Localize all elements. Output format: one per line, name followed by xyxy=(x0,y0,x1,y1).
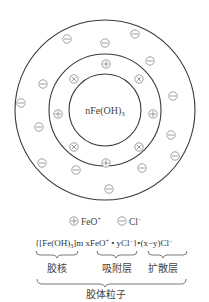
minus-ion-icon xyxy=(171,152,179,160)
cross-ion-icon xyxy=(135,143,143,151)
minus-ion-icon xyxy=(38,159,46,167)
label-core: 胶核 xyxy=(47,262,67,274)
colloid-formula: {[Fe(OH)3]m xFeO+ • yCl−}•(x−y)Cl− xyxy=(35,238,173,250)
plus-ion-icon xyxy=(102,60,110,68)
plus-ion-icon xyxy=(54,110,62,118)
minus-ion-icon xyxy=(146,57,154,65)
legend: FeO+ Cl− xyxy=(70,216,142,227)
minus-ion-icon xyxy=(131,30,139,38)
legend-plus-icon xyxy=(70,217,78,225)
core-label: nFe(OH)3 xyxy=(85,105,125,118)
legend-cl-label: Cl− xyxy=(129,216,142,227)
plus-ion-icon xyxy=(149,110,157,118)
minus-ion-icon xyxy=(105,185,113,193)
brace-diffuse xyxy=(148,251,187,258)
cross-ion-icon xyxy=(70,143,78,151)
brace-colloid-particle xyxy=(37,279,186,287)
minus-ion-icon xyxy=(72,166,80,174)
brace-adsorption xyxy=(97,251,137,258)
legend-feo-label: FeO+ xyxy=(81,216,101,227)
legend-minus-icon xyxy=(118,217,126,225)
minus-ion-icon xyxy=(35,123,43,131)
label-adsorption-layer: 吸附层 xyxy=(102,262,132,274)
brace-core xyxy=(36,251,78,258)
minus-ion-icon xyxy=(63,35,71,43)
minus-ion-icon xyxy=(167,131,175,139)
cross-ion-icon xyxy=(135,75,143,83)
minus-ion-icon xyxy=(138,164,146,172)
cross-ion-icon xyxy=(70,75,78,83)
colloid-structure-diagram: nFe(OH)3 FeO+ Cl− {[Fe(OH)3]m xFeO+ • yC… xyxy=(0,0,209,302)
minus-ion-icon xyxy=(17,99,25,107)
plus-ion-icon xyxy=(102,159,110,167)
label-colloid-particle: 胶体粒子 xyxy=(86,288,126,300)
label-diffuse-layer: 扩散层 xyxy=(148,262,178,274)
minus-ion-icon xyxy=(169,92,177,100)
minus-ion-icon xyxy=(39,80,47,88)
minus-ion-icon xyxy=(101,39,109,47)
